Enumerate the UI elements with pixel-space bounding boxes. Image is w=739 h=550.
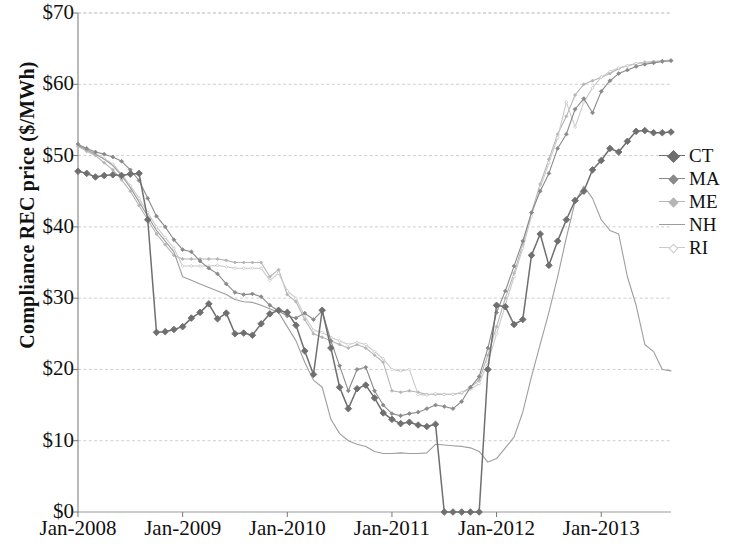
legend-label: NH xyxy=(689,215,716,234)
data-point xyxy=(554,238,561,245)
data-point xyxy=(574,126,577,129)
data-point xyxy=(336,384,343,391)
x-tick-label: Jan-2013 xyxy=(563,516,640,541)
legend-item-ma[interactable]: MA xyxy=(659,167,739,190)
legend-marker xyxy=(667,150,680,163)
data-point xyxy=(111,168,114,171)
data-point xyxy=(546,262,553,269)
data-point xyxy=(286,290,289,293)
data-point xyxy=(458,509,465,516)
plot-svg xyxy=(0,0,739,550)
data-point xyxy=(338,339,341,342)
data-point xyxy=(415,422,422,429)
data-point xyxy=(399,414,403,418)
data-point xyxy=(399,391,402,394)
data-point xyxy=(268,275,271,278)
data-point xyxy=(225,259,228,262)
data-point xyxy=(390,389,393,392)
data-point xyxy=(251,292,255,296)
legend-label: MA xyxy=(689,169,720,188)
data-point xyxy=(338,343,341,346)
data-point xyxy=(312,329,315,332)
data-point xyxy=(591,86,594,89)
data-point xyxy=(425,407,429,411)
legend-item-ri[interactable]: RI xyxy=(659,236,739,259)
data-point xyxy=(321,336,324,339)
data-point xyxy=(164,243,167,246)
data-point xyxy=(83,170,90,177)
data-point xyxy=(373,350,376,353)
data-point xyxy=(504,297,507,300)
data-point xyxy=(442,405,446,409)
data-point xyxy=(233,261,236,264)
data-point xyxy=(127,171,134,178)
data-point xyxy=(495,332,498,335)
data-point xyxy=(181,257,184,260)
data-point xyxy=(286,293,289,296)
legend-item-nh[interactable]: NH xyxy=(659,213,739,236)
data-point xyxy=(443,393,446,396)
data-point xyxy=(650,129,657,136)
data-point xyxy=(373,354,376,357)
data-point xyxy=(347,347,350,350)
data-point xyxy=(537,231,544,238)
data-point xyxy=(511,321,518,328)
data-point xyxy=(251,261,254,264)
data-point xyxy=(207,257,210,260)
data-point xyxy=(251,267,254,270)
legend-item-ct[interactable]: CT xyxy=(659,144,739,167)
data-point xyxy=(75,168,82,175)
x-tick-label: Jan-2012 xyxy=(458,516,535,541)
data-point xyxy=(382,357,385,360)
legend-swatch-ma-icon xyxy=(659,172,685,186)
data-point xyxy=(199,265,202,268)
data-point xyxy=(625,68,629,72)
data-point xyxy=(295,297,298,300)
data-point xyxy=(668,129,675,136)
data-point xyxy=(450,509,457,516)
data-point xyxy=(364,343,367,346)
data-point xyxy=(407,412,411,416)
data-point xyxy=(103,161,106,164)
x-tick-label: Jan-2011 xyxy=(354,516,430,541)
data-point xyxy=(136,170,143,177)
legend-swatch-nh-icon xyxy=(659,218,685,232)
chart-legend: CTMAMENHRI xyxy=(659,144,739,259)
data-point xyxy=(162,328,169,335)
legend-item-me[interactable]: ME xyxy=(659,190,739,213)
legend-label: ME xyxy=(689,192,718,211)
x-tick-label: Jan-2009 xyxy=(144,516,221,541)
data-point xyxy=(390,368,393,371)
legend-swatch-ct-icon xyxy=(659,149,685,163)
data-point xyxy=(321,331,324,334)
data-point xyxy=(556,136,559,139)
legend-line xyxy=(659,224,685,225)
data-point xyxy=(565,101,568,104)
data-point xyxy=(232,330,239,337)
data-point xyxy=(171,326,178,333)
data-point xyxy=(626,64,629,67)
data-point xyxy=(659,129,666,136)
data-point xyxy=(277,268,280,271)
data-point xyxy=(242,293,246,297)
data-point xyxy=(312,332,315,335)
data-point xyxy=(521,247,524,250)
data-point xyxy=(233,267,236,270)
rec-price-chart: Compliance REC price ($/MWh) $0$10$20$30… xyxy=(0,0,739,550)
data-point xyxy=(399,369,402,372)
data-point xyxy=(240,330,247,337)
data-point xyxy=(260,267,263,270)
data-point xyxy=(164,236,167,239)
legend-swatch-ri-icon xyxy=(659,241,685,255)
data-point xyxy=(582,83,585,86)
series-line-ri xyxy=(78,61,671,395)
series-line-ct xyxy=(78,131,671,512)
data-point xyxy=(146,196,150,200)
data-point xyxy=(397,420,404,427)
data-point xyxy=(172,247,175,250)
series-ct xyxy=(75,127,675,515)
data-point xyxy=(382,361,385,364)
data-point xyxy=(434,392,437,395)
data-point xyxy=(513,275,516,278)
data-point xyxy=(277,272,280,275)
